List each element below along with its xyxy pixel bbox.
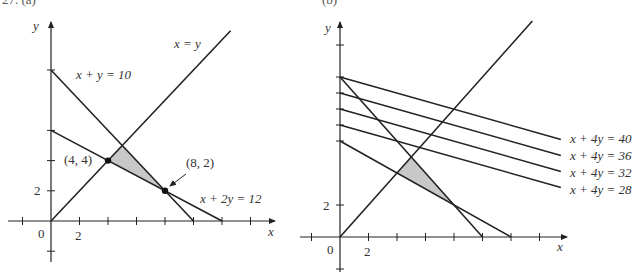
axes-b [300, 22, 567, 272]
y-axis-label-b: y [323, 20, 331, 35]
line-x-plus-4y-eq-28 [340, 125, 561, 187]
line-x-plus-4y-eq-32 [340, 109, 561, 171]
x-tick-label-2-a: 2 [75, 228, 82, 243]
axes-a [8, 22, 275, 262]
x-tick-label-2-b: 2 [364, 244, 371, 259]
line-x-plus-4y-eq-36 [340, 93, 561, 155]
problem-label-left: 27. (a) [2, 0, 36, 7]
plot-b: x + 4y = 40 x + 4y = 36 x + 4y = 32 x + … [300, 20, 632, 272]
constraint-lines-b [340, 21, 561, 237]
legend-x-plus-4y-eq-40: x + 4y = 40 [569, 131, 632, 146]
y-axis-label-a: y [31, 18, 39, 33]
x-axis-label-b: x [556, 239, 563, 254]
x-axis-label-a: x [267, 224, 274, 239]
point-4-4 [105, 157, 111, 163]
line-x-plus-2y-eq-12 [51, 130, 222, 221]
line-x-plus-2y-eq-12 [340, 141, 511, 237]
label-x-plus-y-eq-10: x + y = 10 [75, 67, 132, 82]
plot-a: x + y = 10 x = y x + 2y = 12 (4, 4) (8, … [8, 18, 275, 262]
labels-b: x + 4y = 40 x + 4y = 36 x + 4y = 32 x + … [323, 20, 632, 259]
figure: 27. (a) (b) x + y = 10 x = y x + 2y = 12… [0, 0, 643, 274]
line-x-plus-4y-eq-40 [340, 77, 561, 139]
label-point-4-4: (4, 4) [64, 152, 92, 167]
problem-label-right: (b) [322, 0, 337, 7]
point-8-2 [162, 188, 168, 194]
legend-x-plus-4y-eq-32: x + 4y = 32 [569, 165, 632, 180]
label-x-eq-y: x = y [173, 36, 201, 51]
origin-label-a: 0 [38, 226, 45, 241]
line-x-eq-y [340, 21, 532, 237]
y-tick-label-2-b: 2 [323, 198, 330, 213]
label-x-plus-2y-eq-12: x + 2y = 12 [199, 191, 262, 206]
origin-label-b: 0 [327, 242, 334, 257]
legend-x-plus-4y-eq-36: x + 4y = 36 [569, 148, 632, 163]
diagram-canvas: 27. (a) (b) x + y = 10 x = y x + 2y = 12… [0, 0, 643, 274]
labels-a: x + y = 10 x = y x + 2y = 12 (4, 4) (8, … [31, 18, 274, 243]
y-tick-label-2-a: 2 [34, 183, 41, 198]
pointer-arrow-8-2 [170, 174, 186, 186]
legend-x-plus-4y-eq-28: x + 4y = 28 [569, 182, 632, 197]
label-point-8-2: (8, 2) [186, 155, 214, 170]
